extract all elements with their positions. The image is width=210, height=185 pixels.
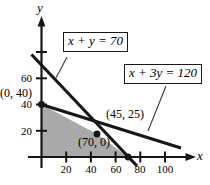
y-axis-label: y <box>37 1 43 14</box>
graph-figure: x y 20 40 60 80 100 20 40 60 (0, 40) (45… <box>0 0 210 185</box>
point-label-70-0: (70, 0) <box>78 136 110 148</box>
x-axis-label: x <box>197 149 203 162</box>
x-tick-label-20: 20 <box>56 164 76 175</box>
point-label-0-40: (0, 40) <box>0 87 32 99</box>
point-label-45-25: (45, 25) <box>106 108 144 120</box>
y-axis-arrowhead <box>38 16 46 27</box>
leader-line-eq2 <box>148 86 166 131</box>
leader-line-eq1 <box>56 57 67 78</box>
marker-70-0 <box>125 154 132 161</box>
y-tick-label-40: 40 <box>12 99 32 110</box>
x-tick-label-100: 100 <box>153 164 177 175</box>
y-tick-label-20: 20 <box>12 126 32 137</box>
marker-0-40 <box>38 101 45 108</box>
x-tick-label-80: 80 <box>130 164 150 175</box>
x-axis-arrowhead <box>186 153 197 161</box>
equation-box-2: x + 3y = 120 <box>124 64 202 84</box>
x-tick-label-40: 40 <box>81 164 101 175</box>
y-tick-label-60: 60 <box>12 73 32 84</box>
equation-box-1: x + y = 70 <box>63 32 128 52</box>
x-tick-label-60: 60 <box>106 164 126 175</box>
